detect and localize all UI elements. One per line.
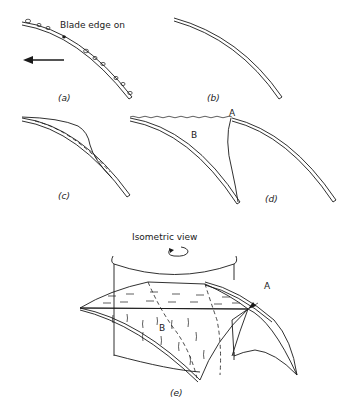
blade-a-inner xyxy=(22,25,129,99)
marker-B-e: B xyxy=(159,323,165,333)
blade-b-outer xyxy=(174,18,282,97)
blade-d-right-inner xyxy=(232,121,333,202)
blade-c-inner xyxy=(22,121,127,197)
blade-b-inner xyxy=(174,21,279,99)
panel-d-label: (d) xyxy=(265,194,278,204)
panel-c: (c) xyxy=(22,117,130,201)
marker-A-e: A xyxy=(264,281,271,291)
cavity-boundary xyxy=(22,117,112,178)
marker-A-d: A xyxy=(229,108,236,118)
wavy-cavity-surface xyxy=(130,116,232,118)
panel-b: (b) xyxy=(174,18,282,103)
marker-B-d: B xyxy=(191,130,197,140)
blade-d-left-inner xyxy=(130,121,237,204)
cavitation-diagram: Blade edge on (a) (b) (c) A B (d) xyxy=(0,0,348,399)
panel-e: Isometric view xyxy=(80,232,297,398)
panel-d: A B (d) xyxy=(130,108,336,204)
rotation-arrow-icon xyxy=(169,247,188,256)
blade-right-hatched: A xyxy=(205,281,297,375)
cavity-closure-line xyxy=(228,118,238,202)
panel-a-label: (a) xyxy=(58,93,71,103)
blade-d-left-outer xyxy=(130,118,240,202)
blade-c-outer xyxy=(22,118,130,195)
panel-b-label: (b) xyxy=(207,93,220,103)
panel-e-label: (e) xyxy=(170,388,183,398)
flow-arrow-icon xyxy=(23,56,64,64)
isometric-view-label: Isometric view xyxy=(132,232,197,242)
panel-c-label: (c) xyxy=(58,191,70,201)
blade-edge-on-label: Blade edge on xyxy=(60,20,125,30)
blade-d-right-outer xyxy=(232,118,336,200)
hub-cylinder xyxy=(112,256,237,372)
panel-a: Blade edge on (a) xyxy=(22,19,132,103)
